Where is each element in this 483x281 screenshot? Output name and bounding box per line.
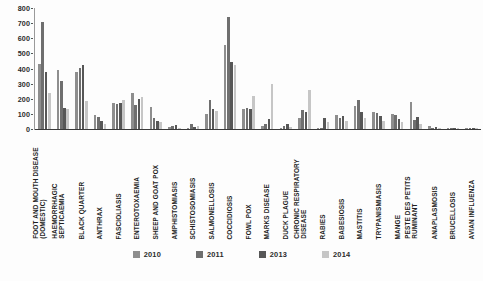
bar [469,128,472,129]
bar [112,103,115,129]
bar [168,127,171,129]
bar-group [258,8,277,129]
y-axis-tick-label: 400 [18,65,30,72]
bar-group [277,8,296,129]
bar [171,126,174,129]
bar [193,127,196,129]
bar-group [128,8,147,129]
bar [252,96,255,129]
bar [150,107,153,129]
bar [48,93,51,129]
x-axis-label: TRYPANISMIASIS [375,183,382,239]
bar [428,126,431,129]
x-axis-label: ANTHRAX [96,207,103,239]
bar [413,120,416,129]
bar [230,62,233,129]
bar-group [202,8,221,129]
y-axis-tick-label: 800 [18,5,30,12]
bar [215,111,218,129]
bar [438,128,441,129]
bar-group [388,8,407,129]
bar [305,112,308,129]
legend-item[interactable]: 2014 [322,250,350,259]
y-axis-tick-label: 200 [18,95,30,102]
bar [97,117,100,129]
legend-item[interactable]: 2013 [259,250,287,259]
bar [379,116,382,129]
bar [38,64,41,129]
y-axis-tick-label: 600 [18,35,30,42]
bar [175,125,178,129]
bar [159,122,162,129]
bar [345,121,348,129]
x-axis-label: MANGE [393,214,400,239]
bar [246,108,249,129]
bar [360,112,363,129]
legend-label: 2010 [144,250,161,259]
legend-item[interactable]: 2011 [196,250,224,259]
bar [416,117,419,129]
x-axis-label: COCCIDIOSIS [226,195,233,239]
x-axis-label: ENTEROTOXAEMIA [133,177,140,239]
bar-group [369,8,388,129]
x-axis-label: MARKS DISEASE [263,184,270,239]
y-axis-tick-label: 300 [18,80,30,87]
bar [41,22,44,129]
bar [475,128,478,129]
x-axis-label: FOOT AND MOUTH DISEASE(DOMESTIC) [33,148,48,239]
y-axis-tick-mark [31,23,33,24]
legend-label: 2014 [333,250,350,259]
bar [450,128,453,129]
bar [209,100,212,129]
bar [187,128,190,130]
legend-item[interactable]: 2010 [133,250,161,259]
bar [323,118,326,129]
bar [249,109,252,129]
x-axis-label: ANAPLASMOSIS [430,186,437,239]
bar-group [314,8,333,129]
bar [264,124,267,129]
bar [376,113,379,129]
bar [317,128,320,129]
bar-group [295,8,314,129]
bar [401,122,404,129]
bar [286,124,289,129]
x-axis-label: RABIES [319,214,326,239]
bar [116,104,119,129]
legend-swatch-icon [322,251,329,258]
x-axis-label: HAEMORRHAGICSEPTICAEMIA [51,184,66,239]
y-axis-tick-label: 500 [18,50,30,57]
bar [82,65,85,129]
bar [190,124,193,129]
x-axis-label: BLACK QUARTER [77,181,84,239]
bar [261,126,264,129]
bar [57,70,60,129]
x-axis-labels: FOOT AND MOUTH DISEASE(DOMESTIC)HAEMORRH… [35,131,481,239]
chart-legend: 2010201120132014 [0,250,483,259]
bar [242,109,245,129]
y-axis-tick-mark [31,129,33,130]
bar [419,124,422,129]
bar [271,84,274,129]
bar [289,127,292,129]
bar [335,115,338,129]
bar [457,128,460,129]
bar-group [351,8,370,129]
x-axis-label: AMPHISTOMIASIS [170,181,177,239]
bar [301,110,304,129]
bar [122,100,125,129]
bar [131,93,134,129]
bar [138,99,141,129]
x-axis-label: SHEEP AND GOAT POX [152,164,159,239]
y-axis-tick-mark [31,84,33,85]
x-axis-label: SCHISTOSOMIASIS [189,177,196,239]
bar [339,118,342,129]
y-axis-tick-mark [31,114,33,115]
bar [63,108,66,129]
bar [227,17,230,129]
bar-group [239,8,258,129]
bar [75,72,78,129]
bar-group [146,8,165,129]
bar-group [462,8,481,129]
bar [398,119,401,129]
